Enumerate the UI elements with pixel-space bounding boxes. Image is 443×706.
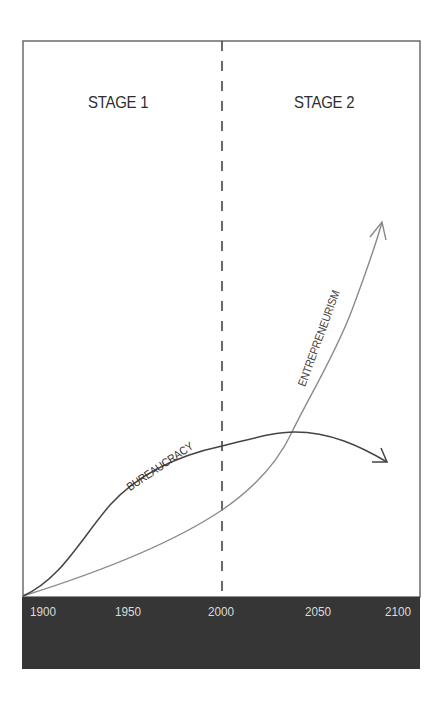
stage-diagram: STAGE 1 STAGE 2 BUREAUCRACY ENTREPRENEUR… [0, 0, 443, 706]
tick-2100: 2100 [385, 604, 411, 619]
tick-2000: 2000 [208, 604, 234, 619]
stage-1-label: STAGE 1 [88, 93, 148, 113]
stage-2-label: STAGE 2 [294, 93, 354, 113]
tick-2050: 2050 [305, 604, 331, 619]
tick-1900: 1900 [30, 604, 56, 619]
tick-1950: 1950 [115, 604, 141, 619]
